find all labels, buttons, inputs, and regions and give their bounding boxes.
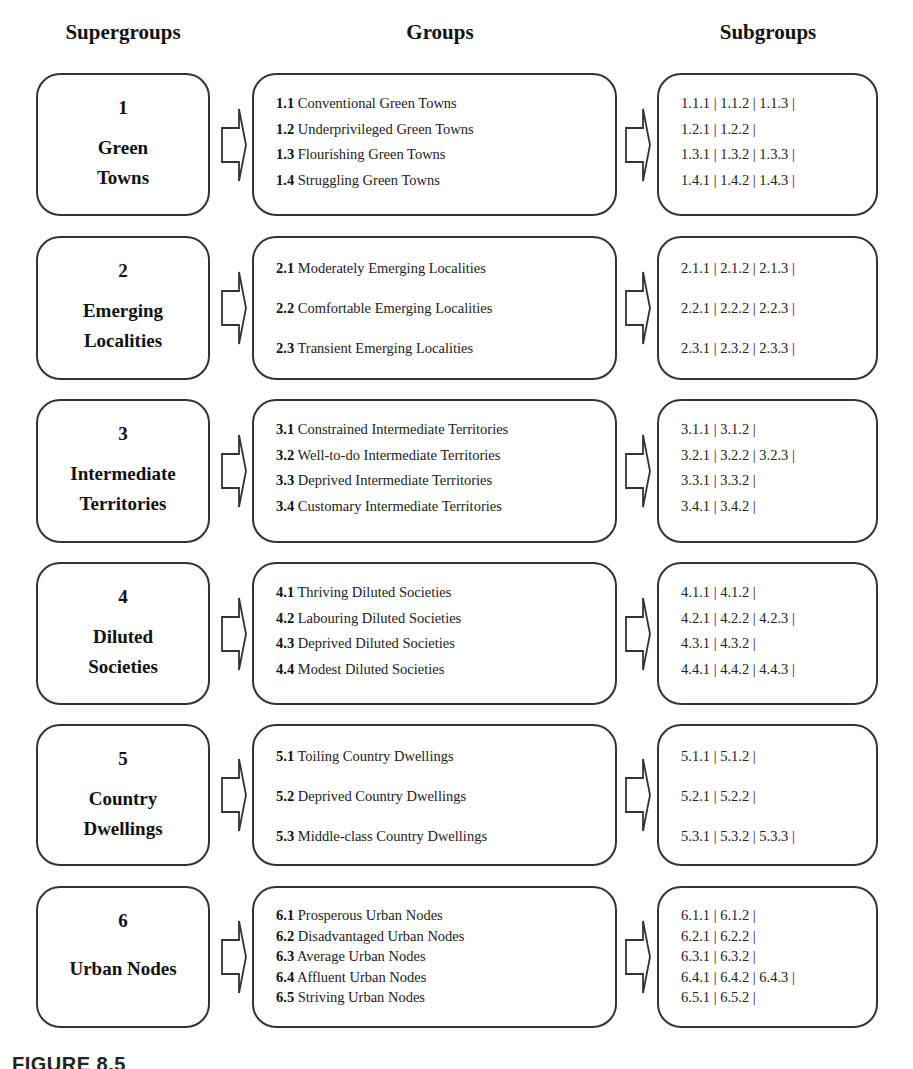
supergroup-box-1: 1 GreenTowns [36,73,210,216]
subgroup-list: 1.1.1 | 1.1.2 | 1.1.3 | [681,95,795,121]
group-code: 4.2 [276,610,294,626]
group-name: Deprived Diluted Societies [298,635,455,651]
groups-box-2: 2.1 Moderately Emerging Localities2.2 Co… [252,236,617,380]
group-name: Middle-class Country Dwellings [298,828,487,844]
group-item: 4.3 Deprived Diluted Societies [276,635,461,661]
supergroup-number: 3 [118,423,128,445]
supergroup-number: 2 [118,260,128,282]
group-name: Underprivileged Green Towns [298,121,474,137]
arrow-right-icon [220,757,250,833]
group-code: 4.3 [276,635,294,651]
group-item: 3.1 Constrained Intermediate Territories [276,421,508,447]
subgroup-list: 3.3.1 | 3.3.2 | [681,472,795,498]
header-subgroups: Subgroups [657,20,879,45]
figure-caption: FIGURE 8.5 [12,1052,126,1069]
group-name: Labouring Diluted Societies [298,610,462,626]
supergroup-name-line: Country [83,784,162,814]
group-code: 1.1 [276,95,294,111]
group-item: 5.3 Middle-class Country Dwellings [276,828,487,868]
group-item: 6.1 Prosperous Urban Nodes [276,907,464,928]
subgroup-list: 1.2.1 | 1.2.2 | [681,121,795,147]
group-item: 2.3 Transient Emerging Localities [276,340,492,380]
arrow-right-icon [624,596,654,672]
supergroup-number: 6 [118,910,128,932]
subgroups-box-1: 1.1.1 | 1.1.2 | 1.1.3 |1.2.1 | 1.2.2 |1.… [657,73,878,216]
supergroup-name: EmergingLocalities [83,296,163,356]
supergroup-name: CountryDwellings [83,784,162,844]
supergroup-box-4: 4 DilutedSocieties [36,562,210,705]
group-code: 4.4 [276,661,294,677]
group-name: Affluent Urban Nodes [297,969,426,985]
subgroup-list: 5.1.1 | 5.1.2 | [681,748,795,788]
subgroup-list: 5.2.1 | 5.2.2 | [681,788,795,828]
arrow-right-icon [624,270,654,346]
group-name: Well-to-do Intermediate Territories [298,447,501,463]
subgroups-box-3: 3.1.1 | 3.1.2 |3.2.1 | 3.2.2 | 3.2.3 |3.… [657,399,878,543]
arrow-right-icon [220,596,250,672]
subgroup-list: 6.5.1 | 6.5.2 | [681,989,795,1010]
group-name: Average Urban Nodes [297,948,426,964]
group-item: 6.3 Average Urban Nodes [276,948,464,969]
group-item: 3.2 Well-to-do Intermediate Territories [276,447,508,473]
group-item: 6.4 Affluent Urban Nodes [276,969,464,990]
subgroup-list: 5.3.1 | 5.3.2 | 5.3.3 | [681,828,795,868]
supergroup-name-line: Green [97,133,149,163]
group-name: Customary Intermediate Territories [298,498,502,514]
group-item: 3.3 Deprived Intermediate Territories [276,472,508,498]
group-name: Constrained Intermediate Territories [298,421,509,437]
header-groups: Groups [290,20,590,45]
groups-box-3: 3.1 Constrained Intermediate Territories… [252,399,617,543]
arrow-right-icon [220,919,250,995]
group-item: 2.1 Moderately Emerging Localities [276,260,492,300]
group-name: Deprived Country Dwellings [298,788,466,804]
group-code: 1.3 [276,146,294,162]
arrow-right-icon [220,270,250,346]
subgroup-list: 3.4.1 | 3.4.2 | [681,498,795,524]
group-name: Striving Urban Nodes [298,989,425,1005]
subgroups-box-5: 5.1.1 | 5.1.2 |5.2.1 | 5.2.2 |5.3.1 | 5.… [657,724,878,866]
arrow-right-icon [624,433,654,509]
supergroup-box-6: 6 Urban Nodes [36,886,210,1028]
group-code: 6.4 [276,969,294,985]
supergroup-name-line: Dwellings [83,814,162,844]
subgroups-box-6: 6.1.1 | 6.1.2 |6.2.1 | 6.2.2 |6.3.1 | 6.… [657,886,878,1028]
supergroup-name: Urban Nodes [69,954,176,984]
group-name: Thriving Diluted Societies [298,584,452,600]
group-code: 1.4 [276,172,294,188]
header-supergroups: Supergroups [18,20,228,45]
group-code: 2.1 [276,260,294,276]
groups-box-4: 4.1 Thriving Diluted Societies4.2 Labour… [252,562,617,705]
group-code: 3.1 [276,421,294,437]
supergroup-name-line: Territories [70,489,176,519]
group-item: 5.2 Deprived Country Dwellings [276,788,487,828]
group-code: 4.1 [276,584,294,600]
group-name: Conventional Green Towns [298,95,457,111]
supergroup-name-line: Intermediate [70,459,176,489]
supergroup-name: GreenTowns [97,133,149,193]
group-item: 1.4 Struggling Green Towns [276,172,474,198]
supergroup-name-line: Towns [97,163,149,193]
supergroup-number: 4 [118,586,128,608]
group-item: 5.1 Toiling Country Dwellings [276,748,487,788]
group-name: Disadvantaged Urban Nodes [298,928,465,944]
group-code: 6.5 [276,989,294,1005]
group-code: 5.1 [276,748,294,764]
subgroup-list: 6.1.1 | 6.1.2 | [681,907,795,928]
groups-box-6: 6.1 Prosperous Urban Nodes6.2 Disadvanta… [252,886,617,1028]
subgroup-list: 3.2.1 | 3.2.2 | 3.2.3 | [681,447,795,473]
subgroup-list: 3.1.1 | 3.1.2 | [681,421,795,447]
supergroup-name-line: Diluted [88,622,158,652]
subgroup-list: 4.4.1 | 4.4.2 | 4.4.3 | [681,661,795,687]
subgroup-list: 4.1.1 | 4.1.2 | [681,584,795,610]
subgroup-list: 1.4.1 | 1.4.2 | 1.4.3 | [681,172,795,198]
group-item: 1.2 Underprivileged Green Towns [276,121,474,147]
subgroup-list: 2.3.1 | 2.3.2 | 2.3.3 | [681,340,795,380]
group-name: Modest Diluted Societies [298,661,445,677]
group-code: 3.4 [276,498,294,514]
arrow-right-icon [624,107,654,183]
supergroup-box-3: 3 IntermediateTerritories [36,399,210,543]
group-name: Struggling Green Towns [298,172,440,188]
arrow-right-icon [220,433,250,509]
subgroup-list: 4.3.1 | 4.3.2 | [681,635,795,661]
supergroup-number: 5 [118,748,128,770]
